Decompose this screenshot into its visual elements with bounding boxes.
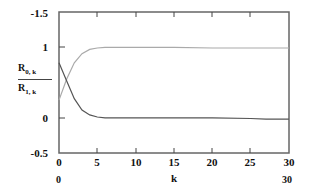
y-tick-0: 0: [8, 113, 48, 124]
series-r1-line: [59, 47, 289, 100]
y-ticks: [59, 47, 65, 118]
legend-r1: R1, k: [18, 82, 36, 96]
series-r0-line: [59, 63, 289, 119]
x-ticks: [97, 12, 250, 153]
x-axis-label: k: [164, 173, 184, 184]
x-tick-5: 5: [87, 157, 107, 168]
y-tick-top: -1.5: [8, 8, 48, 19]
x-tick-15: 15: [164, 157, 184, 168]
legend-divider: [18, 79, 52, 80]
y-tick-1: 1: [8, 42, 48, 53]
x-tick-0: 0: [49, 157, 69, 168]
x-tick-20: 20: [202, 157, 222, 168]
y-tick-bottom: -0.5: [8, 148, 48, 159]
x-tick-10: 10: [126, 157, 146, 168]
x-range-max[interactable]: 30: [282, 174, 292, 185]
x-tick-30: 30: [279, 157, 299, 168]
x-range-min[interactable]: 0: [56, 174, 61, 185]
legend-r0: R0, k: [18, 62, 36, 76]
plot-frame: [59, 12, 289, 153]
x-tick-25: 25: [240, 157, 260, 168]
plot-area: [0, 0, 311, 193]
